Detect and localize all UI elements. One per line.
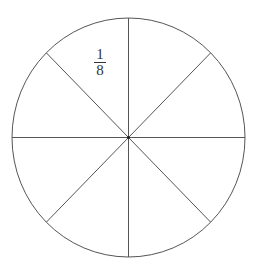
center-point [127, 136, 130, 139]
fraction-label: 1 8 [94, 46, 106, 78]
fraction-numerator: 1 [96, 46, 104, 62]
fraction-circle-diagram: 1 8 [0, 0, 260, 268]
fraction-denominator: 8 [96, 62, 104, 78]
